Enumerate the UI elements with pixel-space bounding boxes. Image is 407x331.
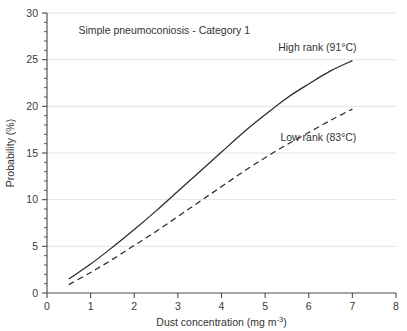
x-axis-title-superscript: -3 <box>277 315 284 324</box>
x-axis-tick-label: 5 <box>262 300 268 312</box>
y-axis-tick-label: 0 <box>32 287 38 299</box>
x-axis-tick-label: 8 <box>393 300 399 312</box>
x-axis-tick-label: 1 <box>88 300 94 312</box>
y-axis-tick-label: 10 <box>26 193 38 205</box>
series-label-high-rank: High rank (91°C) <box>278 41 356 53</box>
x-axis-tick-label: 7 <box>349 300 355 312</box>
y-axis-title: Probability (%) <box>4 119 16 187</box>
chart-plot-area: 012345678051015202530Simple pneumoconios… <box>0 0 407 331</box>
series-label-low-rank: Low rank (83°C) <box>280 131 356 143</box>
x-axis-tick-label: 4 <box>219 300 225 312</box>
y-axis-tick-label: 5 <box>32 240 38 252</box>
x-axis-tick-label: 0 <box>44 300 50 312</box>
y-axis-tick-label: 20 <box>26 100 38 112</box>
chart-figure: 012345678051015202530Simple pneumoconios… <box>0 0 407 331</box>
x-axis-title-tail: ) <box>283 316 287 328</box>
x-axis-title-main: Dust concentration (mg m <box>156 316 276 328</box>
x-axis-tick-label: 6 <box>306 300 312 312</box>
y-axis-tick-label: 30 <box>26 7 38 19</box>
x-axis-tick-label: 2 <box>131 300 137 312</box>
y-axis-tick-label: 15 <box>26 147 38 159</box>
chart-caption: Simple pneumoconiosis - Category 1 <box>78 24 250 36</box>
y-axis-tick-label: 25 <box>26 53 38 65</box>
x-axis-title: Dust concentration (mg m-3) <box>156 315 286 328</box>
x-axis-tick-label: 3 <box>175 300 181 312</box>
